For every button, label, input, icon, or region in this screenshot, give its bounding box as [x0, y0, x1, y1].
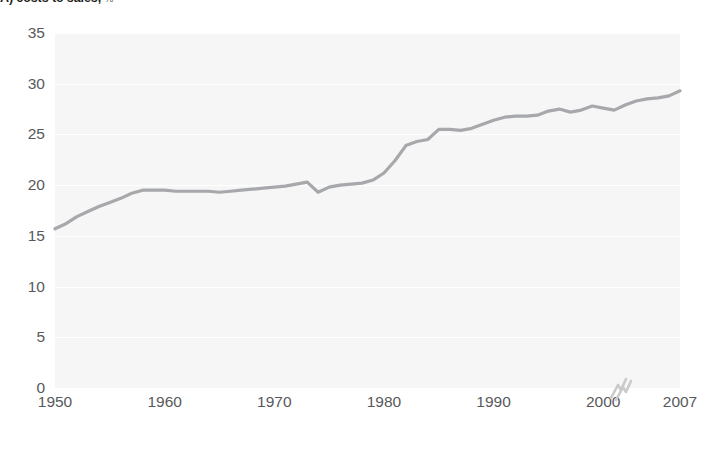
- x-axis-tick-label: 1950: [38, 394, 72, 410]
- x-axis-tick-label: 1990: [476, 394, 510, 410]
- x-axis: 1950196019701980199020002007: [0, 0, 705, 458]
- x-axis-tick-label: 1970: [257, 394, 291, 410]
- axis-break-squiggle-icon: [608, 376, 636, 402]
- x-axis-tick-label: 1980: [367, 394, 401, 410]
- x-axis-tick-label: 1960: [147, 394, 181, 410]
- x-axis-tick-label: 2007: [663, 394, 697, 410]
- chart-panel: A) costs to sales, % 05101520253035 1950…: [0, 0, 705, 458]
